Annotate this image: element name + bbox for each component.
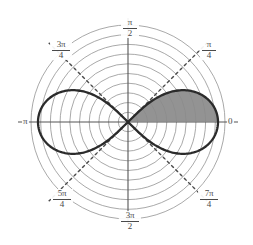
angle-label-7pi-over-4-numerator: 7π [199, 189, 219, 198]
angle-label-0: 0 [227, 117, 234, 126]
polar-plot-figure: 0 π 4 π 2 3π 4 π 5π 4 3π 2 7π 4 [0, 0, 253, 245]
angle-label-pi-over-2-denominator: 2 [122, 29, 138, 38]
shaded-area-region [128, 90, 218, 122]
angle-label-3pi-over-2: 3π 2 [119, 211, 141, 231]
angle-label-pi-over-4: π 4 [200, 40, 218, 60]
angle-label-3pi-over-2-numerator: 3π [120, 211, 140, 220]
angle-label-5pi-over-4-denominator: 4 [52, 200, 72, 209]
angle-label-pi-over-4-denominator: 4 [201, 51, 217, 60]
angle-label-pi-over-4-numerator: π [201, 40, 217, 49]
angle-label-3pi-over-4: 3π 4 [50, 40, 72, 60]
angle-label-3pi-over-4-numerator: 3π [51, 40, 71, 49]
angle-label-pi-over-2: π 2 [121, 18, 139, 38]
angle-label-5pi-over-4: 5π 4 [51, 189, 73, 209]
angle-label-3pi-over-2-denominator: 2 [120, 222, 140, 231]
angle-label-pi: π [22, 117, 29, 126]
angle-label-5pi-over-4-numerator: 5π [52, 189, 72, 198]
angle-label-7pi-over-4: 7π 4 [198, 189, 220, 209]
angle-label-3pi-over-4-denominator: 4 [51, 51, 71, 60]
angle-label-7pi-over-4-denominator: 4 [199, 200, 219, 209]
angle-label-pi-over-2-numerator: π [122, 18, 138, 27]
